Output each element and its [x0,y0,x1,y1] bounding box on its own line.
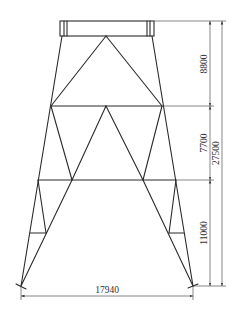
panel-height-dimensions: 8800 7700 11000 [199,21,210,286]
top-cap [60,21,154,36]
dim-middle-panel: 7700 [199,133,209,152]
dim-total-height: 27500 [211,141,221,165]
middle-panel-bracing [38,106,176,180]
upper-panel-bracing [51,36,162,106]
base-width-dimension: 17940 [21,285,193,296]
dim-base-width: 17940 [95,285,119,295]
dim-lower-panel: 11000 [199,221,209,245]
lower-panel-bracing [21,180,193,286]
tower-diagram: 8800 7700 11000 27500 17940 [0,0,242,321]
main-legs [21,36,193,286]
extension-lines [21,21,226,300]
total-height-dimension: 27500 [211,21,222,286]
dim-upper-panel: 8800 [199,54,209,73]
